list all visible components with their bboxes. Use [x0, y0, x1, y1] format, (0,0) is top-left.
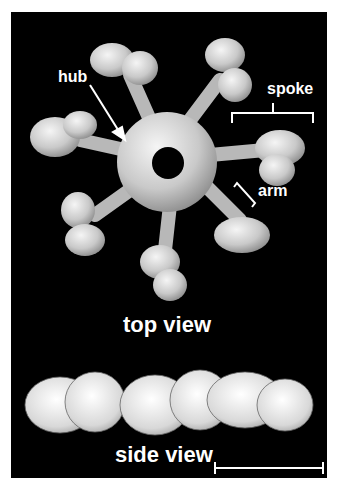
spoke-bracket: [232, 113, 313, 123]
arm-label: arm: [258, 182, 287, 200]
spoke-label: spoke: [267, 80, 313, 98]
side-view-structure: [25, 370, 313, 435]
hub-arrow: [90, 85, 125, 140]
arm-bracket: [234, 183, 255, 207]
hub-central-pore: [152, 147, 184, 179]
scale-bar: [215, 462, 323, 474]
figure-panel: hub spoke arm top view side view: [11, 12, 327, 478]
side-view-label: side view: [115, 442, 213, 468]
hub-label: hub: [58, 68, 87, 86]
top-view-label: top view: [123, 312, 211, 338]
